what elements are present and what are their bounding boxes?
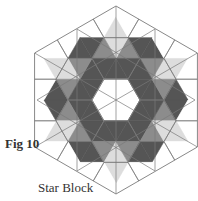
quilt-piece bbox=[80, 0, 104, 17]
quilt-piece bbox=[8, 79, 32, 100]
quilt-piece bbox=[188, 183, 198, 201]
quilt-piece bbox=[8, 58, 32, 79]
quilt-piece bbox=[44, 17, 68, 38]
quilt-piece bbox=[152, 0, 176, 17]
quilt-piece bbox=[0, 100, 8, 121]
quilt-piece bbox=[152, 183, 176, 201]
quilt-piece bbox=[32, 0, 56, 17]
quilt-piece bbox=[176, 162, 198, 183]
hex-seam bbox=[164, 0, 198, 38]
quilt-piece bbox=[44, 0, 68, 17]
quilt-piece bbox=[128, 183, 152, 201]
hex-seam bbox=[128, 0, 176, 17]
quilt-piece bbox=[0, 79, 8, 100]
figure-label: Fig 10 bbox=[5, 136, 39, 152]
quilt-piece bbox=[164, 162, 188, 183]
hex-seam bbox=[56, 0, 104, 17]
quilt-piece bbox=[164, 0, 188, 17]
quilt-piece bbox=[0, 58, 8, 79]
quilt-piece bbox=[32, 17, 56, 38]
quilt-piece bbox=[176, 0, 198, 17]
quilt-piece bbox=[68, 0, 92, 17]
quilt-piece bbox=[152, 162, 176, 183]
hex-seam bbox=[20, 0, 68, 38]
quilt-piece bbox=[164, 17, 188, 38]
quilt-piece bbox=[188, 17, 198, 38]
quilt-piece bbox=[20, 17, 44, 38]
quilt-piece bbox=[128, 0, 152, 17]
quilt-piece bbox=[188, 162, 198, 183]
quilt-piece bbox=[20, 0, 44, 17]
quilt-piece bbox=[176, 17, 198, 38]
quilt-piece bbox=[20, 38, 44, 59]
quilt-piece bbox=[0, 58, 20, 79]
figure-caption: Star Block bbox=[38, 180, 93, 196]
quilt-piece bbox=[164, 183, 188, 201]
quilt-piece bbox=[56, 17, 80, 38]
quilt-piece bbox=[152, 17, 176, 38]
quilt-piece bbox=[56, 0, 80, 17]
quilt-piece bbox=[140, 0, 164, 17]
quilt-piece bbox=[8, 100, 32, 121]
hex-seam bbox=[0, 58, 32, 100]
quilt-piece bbox=[140, 183, 164, 201]
hex-seam bbox=[164, 162, 198, 201]
quilt-piece bbox=[0, 79, 20, 100]
hex-seam bbox=[128, 183, 176, 201]
quilt-piece bbox=[176, 183, 198, 201]
star-block-diagram bbox=[0, 0, 198, 201]
quilt-piece bbox=[0, 100, 20, 121]
quilt-piece bbox=[188, 0, 198, 17]
